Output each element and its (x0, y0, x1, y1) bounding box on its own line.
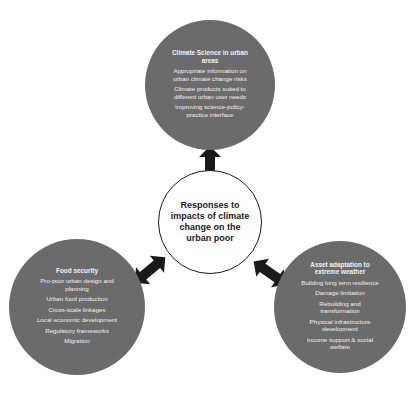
node-item: Cross-scale linkages (48, 306, 105, 313)
node-item: Pro-poor urban design and planning (30, 277, 125, 292)
node-item: Rebuilding and transformation (310, 300, 370, 315)
node-asset-adaptation: Asset adaptation to extreme weather Buil… (274, 241, 406, 373)
node-food-security: Food security Pro-poor urban design and … (9, 239, 145, 375)
node-climate-science: Climate Science in urban areas Appropria… (145, 20, 275, 150)
node-title: Food security (56, 267, 98, 275)
node-item: Improving science-policy-practice interf… (171, 103, 249, 118)
node-title: Climate Science in urban areas (170, 49, 250, 64)
node-item: Appropriate information on urban climate… (168, 67, 253, 82)
node-item: Regulatory frameworks (45, 327, 109, 334)
node-item: Urban food production (46, 295, 107, 302)
node-item: Building long term resilience (301, 279, 378, 286)
node-item: Damage limitation (315, 289, 365, 296)
node-item: Local economic development (37, 316, 117, 323)
node-item: Climate products suited to different urb… (168, 85, 253, 100)
node-center: Responses to impacts of climate change o… (158, 170, 262, 274)
node-item: Migration (64, 337, 89, 344)
node-item: Income support & social welfare (298, 336, 383, 351)
node-title: Asset adaptation to extreme weather (300, 261, 380, 276)
node-item: Physical infrastructure development (300, 318, 380, 333)
center-label: Responses to impacts of climate change o… (170, 200, 250, 245)
